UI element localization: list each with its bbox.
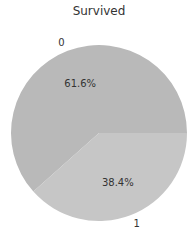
chart-title: Survived <box>73 4 126 18</box>
pie-chart-svg: Survived 61.6%038.4%1 <box>0 0 196 245</box>
pie-slices <box>11 45 187 221</box>
pie-category-label: 1 <box>134 218 140 229</box>
pie-pct-label: 38.4% <box>102 177 134 188</box>
pie-chart: Survived 61.6%038.4%1 <box>0 0 196 245</box>
pie-pct-label: 61.6% <box>64 78 96 89</box>
pie-category-label: 0 <box>58 37 64 48</box>
